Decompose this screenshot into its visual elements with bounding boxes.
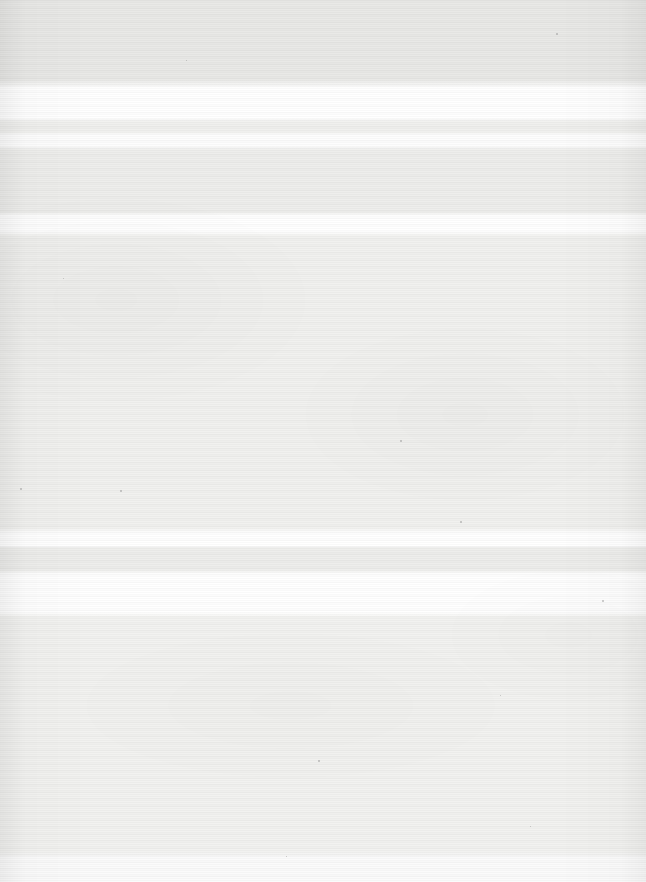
dust-speck	[602, 600, 604, 602]
dust-speck-layer	[0, 0, 646, 882]
dust-speck	[120, 490, 122, 492]
scanline-striation-fine	[0, 0, 646, 882]
scanned-page	[0, 0, 646, 882]
edge-vignette	[0, 0, 646, 882]
dust-speck	[530, 826, 531, 827]
dust-speck	[186, 60, 187, 61]
dust-speck	[286, 856, 287, 857]
dust-speck	[63, 278, 64, 279]
scanline-striation-coarse	[0, 0, 646, 882]
dust-speck	[556, 33, 558, 35]
dust-speck	[400, 440, 402, 442]
dust-speck	[318, 760, 320, 762]
dust-speck	[20, 488, 22, 490]
dust-speck	[500, 695, 501, 696]
scanner-illumination-banding	[0, 0, 646, 882]
paper-mottle-texture	[0, 0, 646, 882]
dust-speck	[460, 521, 462, 523]
